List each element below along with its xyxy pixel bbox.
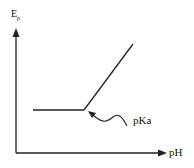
pka-annotation: pKa: [133, 114, 151, 126]
x-axis-arrow-icon: [158, 150, 167, 157]
pka-pointer-arrow: [93, 115, 127, 126]
diagram-canvas: [0, 0, 194, 168]
ep-vs-ph-diagram: Ep pH pKa: [0, 0, 194, 168]
y-axis-arrow-icon: [13, 28, 20, 37]
y-axis-label: Ep: [11, 8, 20, 21]
y-axis-label-subscript: p: [17, 15, 20, 21]
slope-segment: [84, 44, 133, 110]
x-axis-label: pH: [169, 146, 182, 158]
